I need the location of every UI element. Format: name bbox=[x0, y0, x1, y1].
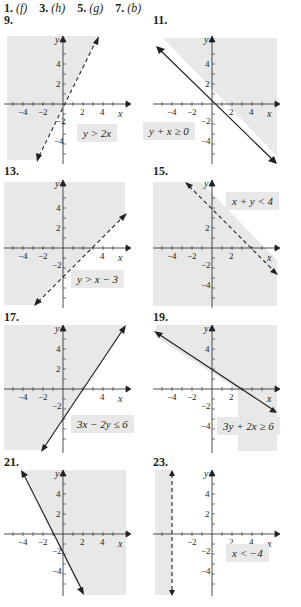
svg-text:−2: −2 bbox=[187, 251, 197, 261]
answer-5: 5. (g) bbox=[77, 1, 103, 15]
svg-text:y: y bbox=[203, 34, 209, 45]
svg-text:y: y bbox=[54, 178, 60, 189]
svg-text:−4: −4 bbox=[52, 566, 62, 576]
svg-text:y: y bbox=[54, 323, 60, 334]
graph-problem-17: −4−24 x y 42 −2 3x − 2y ≤ 6 bbox=[4, 325, 130, 453]
inequality-label: 3x − 2y ≤ 6 bbox=[71, 415, 134, 433]
svg-text:2: 2 bbox=[205, 509, 210, 519]
inequality-label: y + x ≥ 0 bbox=[143, 122, 195, 140]
svg-text:2: 2 bbox=[80, 107, 85, 117]
problem-11-number: 11. bbox=[153, 13, 167, 28]
svg-text:−2: −2 bbox=[56, 116, 66, 126]
svg-text:−4: −4 bbox=[201, 136, 211, 146]
svg-text:2: 2 bbox=[80, 537, 85, 547]
inequality-label: x + y < 4 bbox=[226, 192, 279, 210]
graph-problem-9: −4−224 x y 42 −2−4 y > 2x bbox=[4, 36, 130, 164]
svg-text:x: x bbox=[117, 393, 123, 404]
svg-text:−2: −2 bbox=[201, 401, 211, 411]
svg-text:y: y bbox=[203, 323, 209, 334]
svg-text:2: 2 bbox=[56, 223, 61, 233]
svg-text:x: x bbox=[117, 538, 123, 549]
svg-text:x: x bbox=[117, 108, 123, 119]
svg-text:2: 2 bbox=[56, 509, 61, 519]
problem-17-number: 17. bbox=[4, 310, 19, 325]
inequality-label: 3y + 2x ≥ 6 bbox=[217, 417, 280, 435]
svg-text:−2: −2 bbox=[201, 546, 211, 556]
svg-text:−4: −4 bbox=[167, 251, 177, 261]
svg-text:y: y bbox=[203, 468, 209, 479]
svg-text:−4: −4 bbox=[18, 537, 28, 547]
svg-text:2: 2 bbox=[56, 79, 61, 89]
answer-3: 3. (h) bbox=[39, 1, 65, 15]
svg-text:4: 4 bbox=[205, 59, 210, 69]
svg-text:−4: −4 bbox=[201, 566, 211, 576]
svg-text:2: 2 bbox=[229, 251, 234, 261]
svg-text:2: 2 bbox=[205, 79, 210, 89]
svg-text:−2: −2 bbox=[52, 260, 62, 270]
svg-text:−4: −4 bbox=[18, 251, 28, 261]
svg-text:−4: −4 bbox=[18, 107, 28, 117]
svg-text:4: 4 bbox=[205, 344, 210, 354]
problem-23-number: 23. bbox=[153, 455, 168, 470]
svg-text:−2: −2 bbox=[187, 392, 197, 402]
svg-text:2: 2 bbox=[205, 223, 210, 233]
svg-text:−4: −4 bbox=[201, 280, 211, 290]
svg-text:−2: −2 bbox=[52, 401, 62, 411]
svg-text:y: y bbox=[54, 468, 60, 479]
problem-19-number: 19. bbox=[153, 310, 168, 325]
problem-9-number: 9. bbox=[4, 13, 13, 28]
svg-text:2: 2 bbox=[56, 364, 61, 374]
svg-text:−2: −2 bbox=[38, 251, 48, 261]
svg-text:y: y bbox=[203, 178, 209, 189]
graph-problem-15: −4−22 x y 2 −2−4 x + y < 4 bbox=[153, 180, 279, 308]
problem-15-number: 15. bbox=[153, 164, 168, 179]
svg-text:2: 2 bbox=[229, 107, 234, 117]
inequality-label: y > 2x bbox=[77, 124, 117, 142]
svg-text:2: 2 bbox=[229, 392, 234, 402]
svg-text:−2: −2 bbox=[187, 537, 197, 547]
svg-text:4: 4 bbox=[205, 489, 210, 499]
graph-problem-23: −224 x y 42 −2−4 x < −4 bbox=[153, 470, 279, 598]
svg-text:4: 4 bbox=[56, 203, 61, 213]
svg-text:4: 4 bbox=[56, 489, 61, 499]
svg-text:y: y bbox=[54, 34, 60, 45]
problem-13-number: 13. bbox=[4, 164, 19, 179]
svg-text:−2: −2 bbox=[201, 260, 211, 270]
svg-text:4: 4 bbox=[100, 251, 105, 261]
problem-21-number: 21. bbox=[4, 455, 19, 470]
svg-text:4: 4 bbox=[100, 537, 105, 547]
svg-text:x: x bbox=[266, 393, 272, 404]
inequality-label: x < −4 bbox=[226, 544, 269, 562]
svg-text:4: 4 bbox=[56, 59, 61, 69]
graph-problem-21: −4−224 x y 42 −2−4 bbox=[4, 470, 130, 598]
svg-text:−2: −2 bbox=[52, 546, 62, 556]
svg-text:x: x bbox=[266, 252, 272, 263]
svg-text:−2: −2 bbox=[38, 107, 48, 117]
graph-problem-13: −4−24 x y 42 −2 y > x − 3 bbox=[4, 180, 130, 308]
svg-text:−2: −2 bbox=[38, 392, 48, 402]
svg-text:−4: −4 bbox=[167, 107, 177, 117]
svg-text:−4: −4 bbox=[201, 421, 211, 431]
svg-text:−2: −2 bbox=[38, 537, 48, 547]
svg-text:4: 4 bbox=[56, 344, 61, 354]
svg-text:4: 4 bbox=[249, 107, 254, 117]
svg-text:−4: −4 bbox=[18, 392, 28, 402]
svg-text:−4: −4 bbox=[167, 392, 177, 402]
answer-7: 7. (b) bbox=[115, 1, 141, 15]
svg-text:x: x bbox=[117, 252, 123, 263]
inequality-label: y > x − 3 bbox=[71, 270, 124, 288]
svg-text:−2: −2 bbox=[187, 107, 197, 117]
graph-problem-19: −4−22 x y 4 −2−4 3y + 2x ≥ 6 bbox=[153, 325, 279, 453]
graph-problem-11: −4−224 x y 42 −2−4 y + x ≥ 0 bbox=[153, 36, 279, 164]
svg-text:−2: −2 bbox=[201, 116, 211, 126]
svg-text:x: x bbox=[266, 108, 272, 119]
svg-text:4: 4 bbox=[100, 392, 105, 402]
svg-text:−4: −4 bbox=[54, 136, 64, 146]
answer-list: 1. (f) 3. (h) 5. (g) 7. (b) bbox=[4, 1, 150, 16]
svg-text:4: 4 bbox=[100, 107, 105, 117]
